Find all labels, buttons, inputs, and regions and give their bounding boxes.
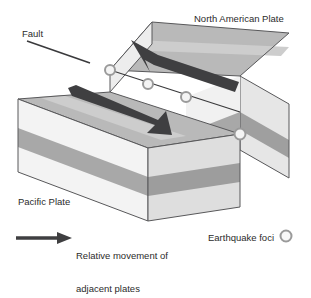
label-fault: Fault (22, 28, 43, 39)
earthquake-focus-4 (235, 129, 246, 140)
legend-movement-label: Relative movement of adjacent plates (76, 228, 168, 298)
legend-arrow-icon (16, 232, 72, 244)
earthquake-focus-1 (105, 65, 115, 75)
legend-foci-circle (281, 231, 292, 242)
fault-leader-line (27, 41, 90, 63)
label-pacific-plate: Pacific Plate (18, 196, 70, 207)
earthquake-focus-3 (181, 92, 191, 102)
legend-foci-icon (281, 231, 292, 242)
legend-foci-label: Earthquake foci (208, 232, 274, 243)
label-north-american-plate: North American Plate (194, 13, 284, 24)
back-block-right-face (240, 76, 289, 178)
legend-movement-line1: Relative movement of (76, 250, 168, 261)
fault-leader-segment (27, 41, 90, 63)
legend-movement-line2: adjacent plates (76, 283, 168, 294)
front-block-right-face (148, 134, 240, 221)
earthquake-focus-2 (143, 79, 153, 89)
legend-arrow-head (57, 232, 72, 244)
